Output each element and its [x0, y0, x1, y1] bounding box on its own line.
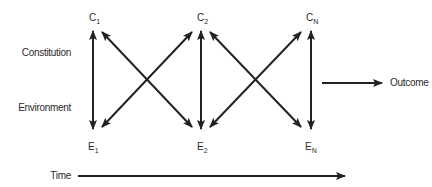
svg-text:C2: C2: [197, 12, 208, 25]
time-label: Time: [50, 170, 71, 181]
node-e2: E2: [197, 141, 208, 154]
diagram-canvas: Constitution Environment C1 C2 CN E1 E2 …: [0, 0, 432, 187]
node-en: EN: [305, 141, 317, 154]
svg-text:CN: CN: [306, 12, 318, 25]
node-c2: C2: [197, 12, 208, 25]
svg-text:E2: E2: [197, 141, 208, 154]
constitution-label: Constitution: [22, 47, 71, 58]
svg-text:E1: E1: [88, 141, 99, 154]
environment-label: Environment: [18, 102, 71, 113]
svg-text:EN: EN: [305, 141, 317, 154]
node-cn: CN: [306, 12, 318, 25]
node-e1: E1: [88, 141, 99, 154]
outcome-label: Outcome: [390, 77, 429, 88]
svg-text:C1: C1: [89, 12, 100, 25]
node-c1: C1: [89, 12, 100, 25]
